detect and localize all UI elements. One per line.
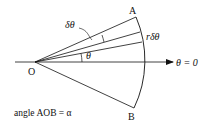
label-theta: θ bbox=[86, 50, 91, 61]
caption-angle-aob: angle AOB = α bbox=[14, 108, 72, 118]
delta-theta-leader bbox=[79, 28, 92, 40]
label-r-delta-theta: rδθ bbox=[146, 31, 160, 42]
label-a: A bbox=[129, 5, 137, 16]
theta-arc bbox=[81, 54, 82, 63]
label-b: B bbox=[128, 111, 135, 122]
arc-ab bbox=[134, 17, 145, 108]
label-o: O bbox=[28, 66, 35, 77]
ray-ob bbox=[35, 62, 134, 108]
delta-theta-arc bbox=[102, 35, 104, 42]
sector-diagram: A B O δθ rδθ θ θ = 0 angle AOB = α bbox=[0, 0, 209, 124]
label-theta-zero: θ = 0 bbox=[176, 57, 198, 68]
label-delta-theta: δθ bbox=[65, 19, 75, 30]
